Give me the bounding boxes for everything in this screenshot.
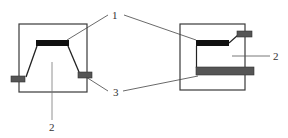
label-2-left: 2 [49,121,55,133]
right-connector [229,35,238,43]
right-top-bar [196,40,229,46]
left-figure [11,24,92,120]
left-top-bar [36,40,69,46]
leader-3-left [86,77,108,91]
left-sloped-wall-left [26,46,37,77]
label-1: 1 [112,9,118,21]
right-frame [180,24,245,90]
label-2-right: 2 [273,50,279,62]
label-3: 3 [113,86,119,98]
leader-1-right [124,15,196,40]
left-tab-left [11,76,25,82]
left-sloped-wall-right [68,46,79,72]
right-offset-tab [237,31,252,37]
left-tab-right [78,72,92,78]
right-figure [180,24,270,90]
leader-3-right [123,76,198,91]
diagram-canvas: 1 2 2 3 [0,0,288,138]
right-bottom-bar [196,67,254,75]
